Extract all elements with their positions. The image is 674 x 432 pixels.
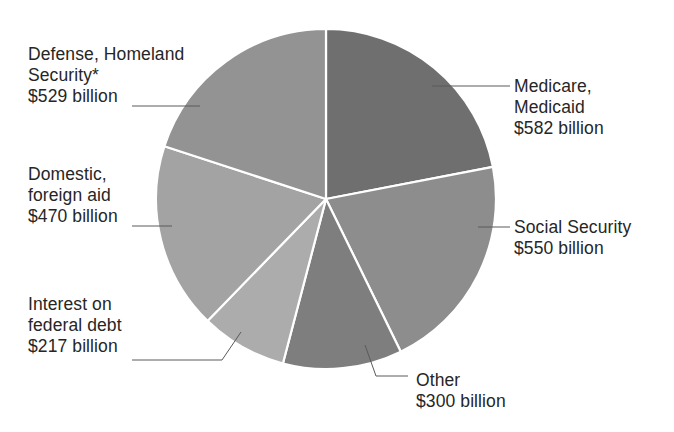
label-interest-value: $217 billion <box>28 336 122 357</box>
label-domestic-line1: Domestic, <box>28 164 118 185</box>
label-social-security-value: $550 billion <box>514 238 631 259</box>
label-domestic-line2: foreign aid <box>28 185 118 206</box>
label-interest-line2: federal debt <box>28 315 122 336</box>
label-interest: Interest on federal debt $217 billion <box>28 294 122 357</box>
label-medicare-value: $582 billion <box>514 118 604 139</box>
label-defense-line1: Defense, Homeland <box>28 44 184 65</box>
pie-slices <box>156 29 496 369</box>
label-other-line1: Other <box>416 370 506 391</box>
label-social-security: Social Security $550 billion <box>514 217 631 259</box>
label-defense-value: $529 billion <box>28 86 184 107</box>
label-social-security-line1: Social Security <box>514 217 631 238</box>
label-medicare-line2: Medicaid <box>514 97 604 118</box>
label-other-value: $300 billion <box>416 391 506 412</box>
label-domestic: Domestic, foreign aid $470 billion <box>28 164 118 227</box>
label-other: Other $300 billion <box>416 370 506 412</box>
label-medicare-line1: Medicare, <box>514 76 604 97</box>
label-domestic-value: $470 billion <box>28 206 118 227</box>
label-defense: Defense, Homeland Security* $529 billion <box>28 44 184 107</box>
label-medicare: Medicare, Medicaid $582 billion <box>514 76 604 139</box>
label-defense-line2: Security* <box>28 65 184 86</box>
label-interest-line1: Interest on <box>28 294 122 315</box>
